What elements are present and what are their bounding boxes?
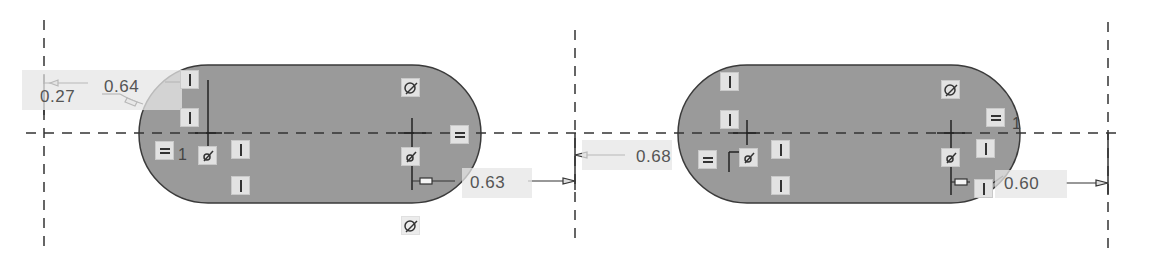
coincident-constraint-icon[interactable] [401, 147, 420, 166]
equal-index-label: 1 [178, 147, 187, 163]
vertical-constraint-icon[interactable] [231, 140, 250, 159]
vertical-constraint-icon[interactable] [771, 140, 790, 159]
dimension-label-0-64[interactable]: 0.64 [104, 78, 139, 95]
vertical-constraint-icon[interactable] [720, 110, 739, 129]
vertical-constraint-icon[interactable] [231, 176, 250, 195]
coincident-constraint-icon[interactable] [941, 148, 960, 167]
equal-constraint-icon[interactable] [698, 150, 717, 169]
vertical-constraint-icon[interactable] [974, 179, 993, 198]
dimension-label-0-63[interactable]: 0.63 [470, 174, 505, 191]
dimension-label-0-27[interactable]: 0.27 [40, 88, 75, 105]
equal-constraint-icon[interactable] [450, 125, 469, 144]
vertical-constraint-icon[interactable] [180, 108, 199, 127]
equal-constraint-icon[interactable] [986, 108, 1005, 127]
equal-constraint-icon[interactable] [155, 141, 174, 160]
coincident-constraint-icon[interactable] [739, 148, 758, 167]
dimension-label-0-60[interactable]: 0.60 [1004, 175, 1039, 192]
vertical-constraint-icon[interactable] [771, 176, 790, 195]
dimension-label-0-68[interactable]: 0.68 [636, 148, 671, 165]
vertical-constraint-icon[interactable] [180, 70, 199, 89]
sketch-canvas[interactable] [0, 0, 1150, 259]
tangent-constraint-icon[interactable] [401, 78, 420, 97]
equal-index-label: 1 [1012, 116, 1021, 132]
tangent-constraint-icon[interactable] [401, 216, 420, 235]
vertical-constraint-icon[interactable] [720, 72, 739, 91]
tangent-constraint-icon[interactable] [941, 80, 960, 99]
coincident-constraint-icon[interactable] [198, 146, 217, 165]
vertical-constraint-icon[interactable] [976, 139, 995, 158]
